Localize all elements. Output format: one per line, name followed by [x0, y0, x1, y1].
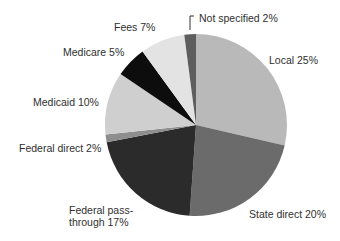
label-local: Local 25% [269, 54, 318, 66]
pie-chart [0, 0, 340, 241]
not-specified-leader-line [190, 16, 194, 30]
label-federal-pass-through-line1: Federal pass- [69, 204, 133, 216]
label-medicaid: Medicaid 10% [33, 96, 99, 108]
label-federal-pass-through-line2: through 17% [69, 216, 129, 228]
pie-slices [105, 34, 287, 216]
label-state-direct: State direct 20% [249, 208, 326, 220]
label-federal-direct: Federal direct 2% [19, 142, 101, 154]
label-not-specified: Not specified 2% [199, 12, 278, 24]
label-medicare: Medicare 5% [63, 46, 124, 58]
label-fees: Fees 7% [114, 21, 155, 33]
